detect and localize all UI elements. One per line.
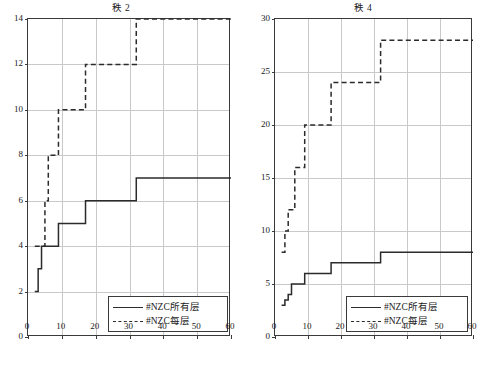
x-axis-tick-label: 50 (192, 321, 201, 331)
x-axis-tick-label: 20 (336, 321, 345, 331)
figure-two-panel-step-charts: 秩 2 #NZC所有层 #NZC每层 010203040506002468101… (0, 0, 484, 367)
x-axis-tick-label: 40 (158, 321, 167, 331)
y-axis-tick-label: 20 (246, 119, 270, 129)
series-line-solid (35, 178, 231, 292)
y-axis-tick-label: 10 (246, 225, 270, 235)
y-axis-tick-label: 0 (246, 331, 270, 341)
legend-swatch-solid-icon (351, 302, 381, 312)
legend-entry-solid: #NZC所有层 (113, 300, 222, 314)
y-axis-tick-label: 5 (246, 278, 270, 288)
series-layer (28, 19, 231, 337)
x-axis-tick-label: 30 (369, 321, 378, 331)
legend-entry-solid: #NZC所有层 (351, 300, 462, 314)
y-axis-tick (25, 337, 29, 338)
x-axis-tick-label: 30 (124, 321, 133, 331)
y-axis-tick-label: 12 (2, 58, 23, 68)
chart-panel-rank-4: 秩 4 #NZC所有层 #NZC每层 010203040506005101520… (242, 0, 484, 367)
x-axis-tick-label: 10 (303, 321, 312, 331)
plot-area-left (27, 18, 230, 336)
y-axis-tick-label: 25 (246, 66, 270, 76)
y-axis-tick-label: 2 (2, 286, 23, 296)
legend-label-solid: #NZC所有层 (384, 301, 438, 313)
x-axis-tick-label: 0 (25, 321, 30, 331)
x-axis-tick-label: 40 (402, 321, 411, 331)
y-axis-tick-label: 10 (2, 104, 23, 114)
series-layer (275, 19, 473, 337)
y-axis-tick (272, 337, 276, 338)
y-axis-tick-label: 0 (2, 331, 23, 341)
legend-label-dashed: #NZC每层 (146, 315, 190, 327)
y-axis-tick-label: 8 (2, 149, 23, 159)
legend-swatch-solid-icon (113, 302, 143, 312)
series-line-dashed (282, 40, 473, 252)
x-axis-tick (231, 335, 232, 339)
chart-title-right: 秩 4 (242, 2, 484, 14)
x-axis-tick-label: 60 (226, 321, 235, 331)
x-axis-tick-label: 50 (435, 321, 444, 331)
series-line-dashed (35, 19, 231, 246)
plot-area-right (274, 18, 472, 336)
x-axis-tick-label: 60 (468, 321, 477, 331)
chart-title-left: 秩 2 (0, 2, 242, 14)
y-axis-tick-label: 14 (2, 13, 23, 23)
y-axis-tick-label: 6 (2, 195, 23, 205)
x-axis-tick-label: 0 (272, 321, 277, 331)
x-axis-tick-label: 10 (56, 321, 65, 331)
y-axis-tick-label: 4 (2, 240, 23, 250)
x-axis-tick-label: 20 (90, 321, 99, 331)
legend-label-solid: #NZC所有层 (146, 301, 200, 313)
y-axis-tick-label: 30 (246, 13, 270, 23)
y-axis-tick-label: 15 (246, 172, 270, 182)
x-axis-tick (473, 335, 474, 339)
chart-panel-rank-2: 秩 2 #NZC所有层 #NZC每层 010203040506002468101… (0, 0, 242, 367)
